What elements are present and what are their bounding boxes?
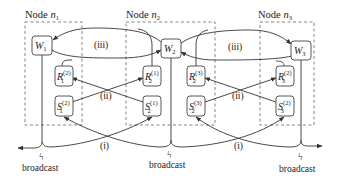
block-s2-1: S(1)2 [143, 96, 161, 116]
phase-iii-left-label: (iii) [94, 40, 108, 51]
block-s2-3: S(3)2 [187, 96, 205, 116]
block-s3-2: S(2)3 [276, 96, 294, 116]
lightning-icon-middle: ϟ [167, 149, 172, 160]
block-w1: W1 [32, 36, 52, 55]
broadcast-label-middle: broadcast [149, 160, 186, 170]
node-n3-label: Node n3 [258, 9, 292, 21]
arrow-w3-to-s23 [196, 117, 301, 147]
phase-i-left-label: (i) [100, 141, 109, 152]
w3-drop [301, 60, 308, 146]
block-r2-1: R(1)2 [143, 66, 161, 86]
phase-i-right-label: (i) [234, 141, 243, 152]
block-r1-2: R(2)1 [55, 66, 73, 86]
arrow-w3-to-w2 [181, 52, 292, 60]
r32-to-w-line [276, 61, 284, 66]
block-w3: W3 [291, 41, 311, 60]
arrow-w1-to-w2 [52, 50, 161, 58]
block-r3-2: R(2)3 [276, 66, 294, 86]
arrow-w2-to-s32 [171, 117, 284, 147]
phase-ii-right-label: (ii) [232, 91, 244, 102]
block-s1-2: S(2)1 [55, 96, 73, 116]
r12-to-w-line [62, 60, 72, 66]
w1-drop [42, 55, 50, 147]
blocks: W1 W2 W3 R(2)1 R(1)2 R(3)2 R(2)3 S(2) [32, 36, 311, 116]
node-n2-label: Node n2 [126, 9, 160, 21]
block-w2: W2 [161, 39, 181, 58]
broadcast-label-left: broadcast [22, 163, 59, 173]
phase-ii-left-label: (ii) [100, 91, 112, 102]
broadcast-label-right: broadcast [279, 164, 316, 174]
phase-iii-right-label: (iii) [228, 42, 242, 53]
lightning-icon-right: ϟ [298, 151, 303, 162]
node-n1-label: Node n1 [25, 9, 59, 21]
network-diagram: Node n1 Node n2 Node n3 [0, 0, 338, 183]
r21-to-w-line [138, 29, 152, 66]
arrow-w2-to-s12 [64, 117, 171, 147]
lightning-icon-left: ϟ [39, 151, 44, 162]
broadcast-out-left [18, 142, 42, 148]
block-r2-3: R(3)2 [187, 66, 205, 86]
